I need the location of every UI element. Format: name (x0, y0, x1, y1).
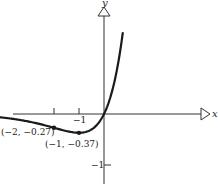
x-tick-label: −1 (73, 115, 86, 125)
x-axis-arrow-icon (201, 108, 210, 120)
point-label: (−1, −0.37) (45, 139, 99, 149)
y-axis-label: y (101, 0, 108, 8)
y-tick-label: −1 (91, 160, 104, 170)
point-label: (−2, −0.27) (1, 127, 55, 137)
x-axis-label: x (212, 108, 218, 119)
point-marker (77, 131, 81, 135)
y-axis-arrow-icon (98, 7, 110, 16)
annotated-points: (−2, −0.27)(−1, −0.37) (1, 126, 99, 149)
function-graph: x y −1−1 (−2, −0.27)(−1, −0.37) (0, 0, 218, 187)
axes: x y (13, 0, 218, 184)
